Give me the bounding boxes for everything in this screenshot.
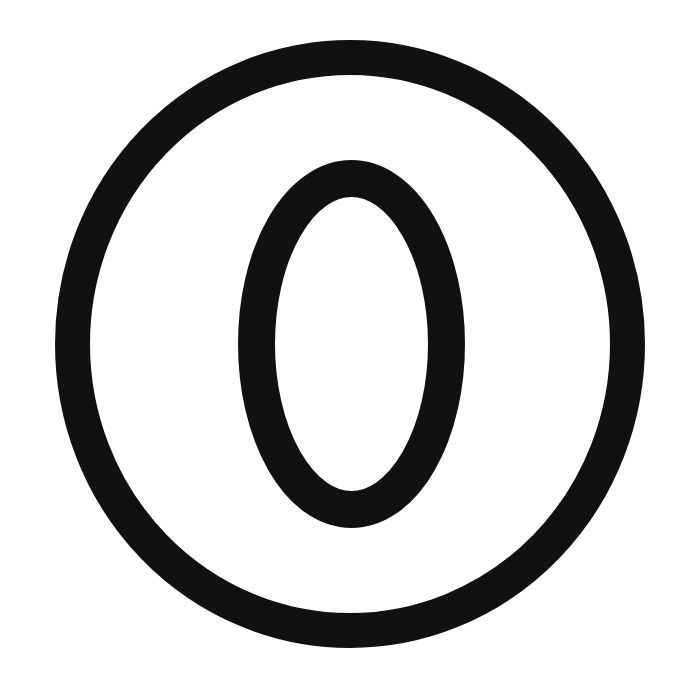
symbol-canvas: Circled zero symbol xyxy=(0,0,695,681)
circled-zero-icon xyxy=(0,0,695,681)
background-rect xyxy=(0,0,695,681)
